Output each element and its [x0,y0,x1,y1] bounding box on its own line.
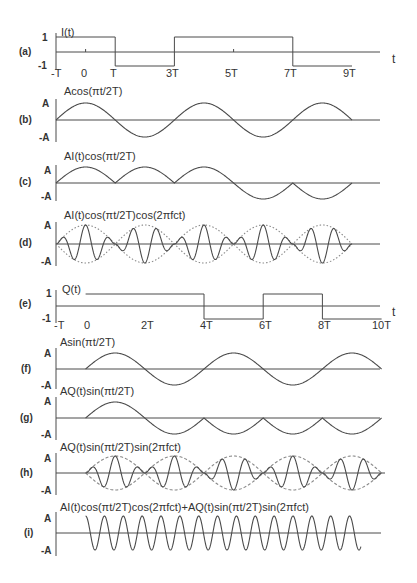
tick-e-6: 10T [372,319,391,331]
y-top-d: A [44,220,51,231]
panel-title-d: AI(t)cos(πt/2T)cos(2πfct) [64,209,186,221]
panel-tag-g: (g) [20,412,33,423]
tick-e-2: 2T [141,319,154,331]
panel-tag-e: (e) [19,298,31,309]
y-top-a: 1 [42,32,48,43]
panel-tag-c: (c) [19,176,31,187]
tick-e-5: 8T [318,319,331,331]
y-bot-c: -A [41,191,52,202]
panel-tag-h: (h) [20,467,33,478]
panel-title-a: I(t) [61,26,74,38]
tick-a-2: T [110,67,117,79]
y-bot-g: -A [41,429,52,440]
tick-a-1: 0 [81,67,87,79]
tick-e-3: 4T [200,319,213,331]
tick-e-0: -T [54,319,64,331]
y-top-e: 1 [46,288,52,299]
tick-e-1: 0 [84,319,90,331]
panel-tag-d: (d) [19,237,32,248]
y-bot-b: -A [39,132,50,143]
y-top-b: A [42,98,49,109]
tick-a-4: 5T [225,67,238,79]
y-bot-a: -1 [38,60,47,71]
y-bot-e: -1 [42,313,51,324]
tick-a-3: 3T [166,67,179,79]
tick-e-4: 6T [259,319,272,331]
y-bot-i: -A [41,545,52,556]
panel-title-g: AQ(t)sin(πt/2T) [60,385,134,397]
panel-title-h: AQ(t)sin(πt/2T)sin(2πfct) [60,441,181,453]
panel-tag-a: (a) [19,46,31,57]
tick-a-0: -T [51,67,61,79]
panel-layer [56,33,385,556]
t-axis-label-a: t [392,52,395,66]
tick-a-6: 9T [343,67,356,79]
y-top-g: A [44,396,51,407]
y-top-c: A [44,165,51,176]
y-bot-f: -A [41,380,52,391]
y-bot-d: -A [41,256,52,267]
panel-title-e: Q(t) [62,283,81,295]
panel-tag-b: (b) [19,114,32,125]
y-top-f: A [44,348,51,359]
panel-title-c: AI(t)cos(πt/2T) [64,150,136,162]
panel-tag-f: (f) [21,363,31,374]
panel-title-f: Asin(πt/2T) [60,336,115,348]
panel-tag-i: (i) [24,527,33,538]
y-top-h: A [44,453,51,464]
panel-title-b: Acos(πt/2T) [64,85,122,97]
t-axis-label-e: t [392,305,395,319]
tick-a-5: 7T [284,67,297,79]
y-bot-h: -A [41,485,52,496]
panel-title-i: AI(t)cos(πt/2T)cos(2πfct)+AQ(t)sin(πt/2T… [60,501,309,513]
y-top-i: A [44,513,51,524]
